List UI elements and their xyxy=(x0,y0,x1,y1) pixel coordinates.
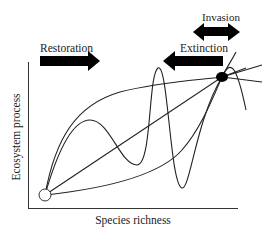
saturating-curve xyxy=(45,77,262,195)
y-axis-label: Ecosystem process xyxy=(10,93,23,181)
restoration-label: Restoration xyxy=(40,42,93,54)
x-axis-label: Species richness xyxy=(95,214,171,227)
invasion-arrow xyxy=(193,23,240,41)
end-point xyxy=(216,72,228,82)
response-curves xyxy=(45,52,262,195)
extinction-label: Extinction xyxy=(180,42,228,54)
start-point xyxy=(39,189,51,201)
wave-curve xyxy=(45,52,236,195)
invasion-label: Invasion xyxy=(202,11,240,23)
restoration-arrow xyxy=(40,51,100,71)
linear-curve xyxy=(45,65,262,195)
ecosystem-diagram: Restoration Extinction Invasion Species … xyxy=(0,0,272,233)
extinction-arrow xyxy=(163,51,223,71)
